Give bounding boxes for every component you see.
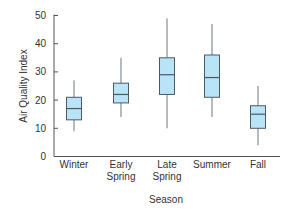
x-category-label: Spring: [107, 171, 136, 182]
box-plot-chart: 01020304050 WinterEarlySpringLateSpringS…: [0, 0, 295, 213]
y-axis-title: Air Quality Index: [18, 49, 29, 122]
iqr-box: [160, 58, 175, 95]
x-category-label: Winter: [60, 159, 90, 170]
box-series: [67, 18, 266, 145]
box-winter: [67, 80, 82, 131]
x-axis: WinterEarlySpringLateSpringSummerFall: [54, 157, 280, 183]
box-fall: [251, 86, 266, 145]
iqr-box: [114, 83, 129, 103]
y-tick-label: 10: [35, 123, 47, 134]
iqr-box: [205, 55, 220, 97]
x-category-label: Fall: [250, 159, 266, 170]
y-tick-label: 20: [35, 95, 47, 106]
box-early-spring: [114, 58, 129, 117]
iqr-box: [251, 106, 266, 129]
y-tick-label: 40: [35, 38, 47, 49]
x-category-label: Late: [157, 159, 177, 170]
box-late-spring: [160, 18, 175, 128]
x-category-label: Spring: [153, 171, 182, 182]
y-tick-label: 0: [40, 151, 46, 162]
x-axis-title: Season: [149, 194, 183, 205]
y-tick-label: 30: [35, 66, 47, 77]
x-category-label: Early: [110, 159, 133, 170]
box-summer: [205, 24, 220, 117]
x-category-label: Summer: [193, 159, 231, 170]
y-axis: 01020304050: [35, 10, 58, 162]
y-tick-label: 50: [35, 10, 47, 21]
